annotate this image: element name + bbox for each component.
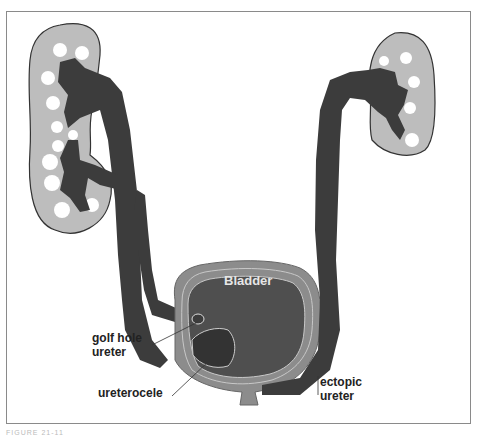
golf-hole-label-1: golf hole xyxy=(92,331,142,345)
urinary-tract-diagram xyxy=(0,0,481,437)
figure-caption: FIGURE 21-11 xyxy=(6,429,64,436)
golf-hole-label-2: ureter xyxy=(92,345,126,359)
bladder-label: Bladder xyxy=(224,274,272,288)
left-kidney xyxy=(29,24,111,234)
ectopic-label-2: ureter xyxy=(320,389,354,403)
ureterocele-label: ureterocele xyxy=(98,386,163,400)
golf-hole-orifice xyxy=(192,314,204,324)
ectopic-label-1: ectopic xyxy=(320,375,362,389)
